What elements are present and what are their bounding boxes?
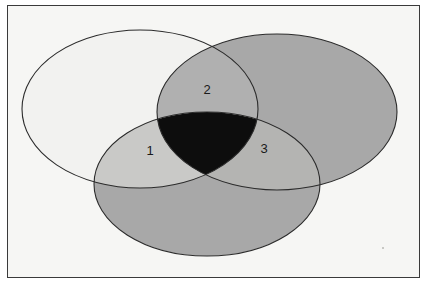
region-label-2: 2 <box>203 82 210 97</box>
venn-diagram-page: 1 2 3 <box>0 0 428 285</box>
scan-speck <box>382 247 384 249</box>
region-label-3: 3 <box>260 141 267 156</box>
region-label-1: 1 <box>146 143 153 158</box>
venn-diagram-canvas: 1 2 3 <box>0 0 428 285</box>
